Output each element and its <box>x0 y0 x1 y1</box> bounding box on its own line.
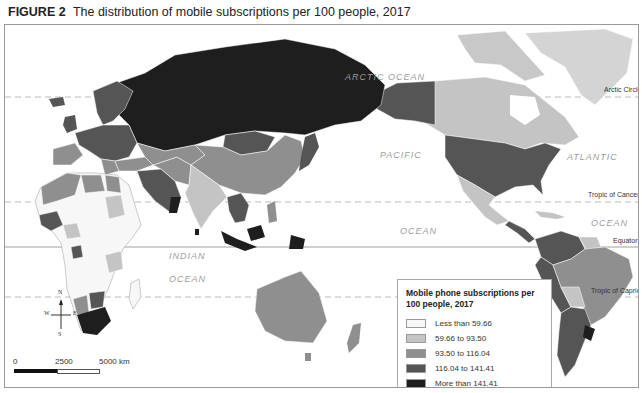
compass-w: W <box>44 310 50 316</box>
label-arctic-circle: Arctic Circle <box>604 86 639 93</box>
scale-tick-5000: 5000 km <box>99 357 130 366</box>
ocean-label-indian: INDIAN <box>169 251 206 261</box>
canada <box>419 77 579 149</box>
argentina <box>557 307 591 377</box>
legend-title: Mobile phone subscriptions per 100 peopl… <box>406 288 546 310</box>
legend-item: More than 141.41 <box>406 378 498 388</box>
ocean-label-indian-2: OCEAN <box>169 274 206 284</box>
compass-n: N <box>58 289 62 295</box>
australia <box>255 271 327 343</box>
ocean-label-arctic: ARCTIC OCEAN <box>345 72 425 82</box>
egypt <box>105 175 121 193</box>
legend-swatch <box>406 379 426 388</box>
legend-swatch <box>406 364 426 373</box>
legend-item: 59.66 to 93.50 <box>406 333 486 344</box>
sri-lanka <box>195 229 199 235</box>
map-frame: ARCTIC OCEAN PACIFIC OCEAN ATLANTIC OCEA… <box>4 24 639 388</box>
gabon <box>71 245 83 259</box>
label-tropic-capricorn: Tropic of Capricorn <box>591 287 639 294</box>
madagascar <box>129 279 141 309</box>
tasmania <box>305 353 311 361</box>
scale-tick-0: 0 <box>13 357 17 366</box>
libya <box>81 175 105 193</box>
philippines <box>267 201 277 223</box>
legend-item: Less than 59.66 <box>406 318 492 329</box>
legend-item: 116.04 to 141.41 <box>406 363 494 374</box>
central-america <box>505 221 535 243</box>
legend: Mobile phone subscriptions per 100 peopl… <box>397 279 552 388</box>
se-asia <box>227 193 249 223</box>
legend-label: 116.04 to 141.41 <box>435 364 494 373</box>
legend-swatch <box>406 334 426 343</box>
iberia <box>53 143 83 165</box>
ocean-label-pacific-2: OCEAN <box>400 226 437 236</box>
legend-swatch <box>406 349 426 358</box>
uk <box>63 115 77 133</box>
new-zealand <box>347 323 361 353</box>
legend-item: 93.50 to 116.04 <box>406 348 490 359</box>
iceland <box>49 97 65 107</box>
legend-label: 59.66 to 93.50 <box>435 334 486 343</box>
borneo <box>247 225 265 241</box>
new-guinea <box>289 235 305 249</box>
oman <box>169 197 181 213</box>
botswana <box>89 291 105 309</box>
figure-caption: The distribution of mobile subscriptions… <box>73 5 411 19</box>
figure-label: FIGURE 2 <box>8 5 66 19</box>
legend-label: More than 141.41 <box>435 379 498 388</box>
compass-s: S <box>58 331 61 337</box>
label-tropic-cancer: Tropic of Cancer <box>588 191 639 198</box>
legend-label: Less than 59.66 <box>435 319 492 328</box>
figure-title: FIGURE 2 The distribution of mobile subs… <box>8 5 411 19</box>
compass-rose: N S W E <box>41 293 81 333</box>
compass-e: E <box>73 310 77 316</box>
legend-label: 93.50 to 116.04 <box>435 349 490 358</box>
scale-tick-2500: 2500 <box>55 357 73 366</box>
caribbean <box>535 211 565 219</box>
japan <box>299 133 319 171</box>
scale-bar-white <box>57 369 100 374</box>
greenland <box>525 29 633 105</box>
label-equator: Equator <box>613 237 638 244</box>
ocean-label-pacific: PACIFIC <box>380 150 422 160</box>
ocean-label-atlantic: ATLANTIC <box>567 152 618 162</box>
legend-swatch <box>406 319 426 328</box>
europe <box>75 125 137 161</box>
scale-bar-black <box>14 369 57 373</box>
ocean-label-atlantic-2: OCEAN <box>591 218 628 228</box>
